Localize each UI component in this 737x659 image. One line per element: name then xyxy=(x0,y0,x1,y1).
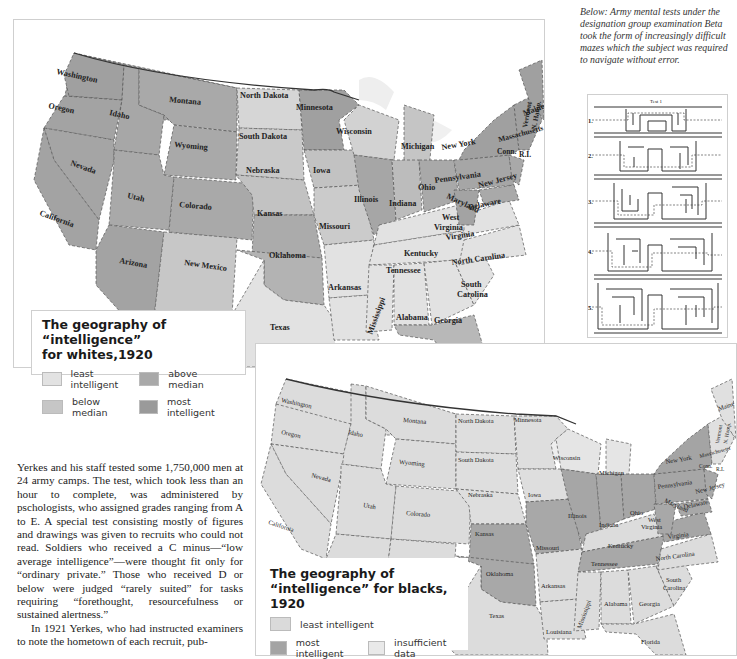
maze-row-label: 5. xyxy=(588,304,593,311)
state-label-georgia: Georgia xyxy=(434,316,462,325)
state-label-illinois: Illinois xyxy=(354,195,378,204)
legend-item-insufficient-data: insufficient data xyxy=(368,637,456,659)
maze-row-label: 2. xyxy=(588,152,593,159)
maze-illustration: Test 1 1. 2. 3. xyxy=(588,95,727,337)
state-label-kansas: Kansas xyxy=(257,209,282,218)
state-label-west-virginia: Virginia xyxy=(641,523,662,530)
state-label-tennessee: Tennessee xyxy=(591,560,618,567)
maze-row-label: 1. xyxy=(588,117,593,124)
legend-label: most intelligent xyxy=(296,637,354,659)
state-label-connecticut: Conn. xyxy=(699,463,713,469)
state-label-south-carolina: South xyxy=(461,280,482,289)
legend-swatch xyxy=(139,372,160,386)
state-label-kansas: Kansas xyxy=(475,530,494,537)
legend-item-below-median: below median xyxy=(42,396,139,418)
state-label-north-dakota: North Dakota xyxy=(458,417,494,424)
legend-swatch xyxy=(270,617,291,631)
legend-title-line: The geography of xyxy=(270,566,456,581)
state-label-wisconsin: Wisconsin xyxy=(336,127,372,136)
legend-title-line: for whites,1920 xyxy=(42,347,235,362)
state-label-arkansas: Arkansas xyxy=(328,283,361,292)
legend-item-above-median: above median xyxy=(139,368,236,390)
legend-item-most-intelligent: most intelligent xyxy=(270,637,354,659)
legend-swatch xyxy=(368,641,385,655)
state-label-kentucky: Kentucky xyxy=(404,249,439,258)
state-label-missouri: Missouri xyxy=(536,544,559,551)
body-paragraph: Yerkes and his staff tested some 1,750,0… xyxy=(17,461,243,622)
legend-swatch xyxy=(42,400,63,414)
state-label-alabama: Alabama xyxy=(604,600,628,607)
body-paragraph: In 1921 Yerkes, who had instructed exami… xyxy=(17,622,243,649)
state-label-georgia: Georgia xyxy=(639,600,660,607)
state-label-south-carolina: Carolina xyxy=(457,290,488,299)
legend-item-least-intelligent: least intelligent xyxy=(270,617,456,631)
state-label-north-dakota: North Dakota xyxy=(240,91,288,100)
state-label-west-virginia: West xyxy=(442,213,460,222)
state-label-west-virginia: West xyxy=(648,516,661,523)
state-label-wisconsin: Wisconsin xyxy=(553,454,581,461)
state-label-south-carolina: Carolina xyxy=(663,584,685,591)
state-label-michigan: Michigan xyxy=(401,142,435,151)
legend-swatch xyxy=(139,400,158,414)
state-label-louisiana: Louisiana xyxy=(546,628,572,635)
legend-title-line: The geography of “intelligence” xyxy=(42,317,235,347)
state-label-indiana: Indiana xyxy=(599,521,619,528)
legend-label: least intelligent xyxy=(71,368,139,390)
body-text: Yerkes and his staff tested some 1,750,0… xyxy=(17,461,243,649)
legend-title-line: “intelligence” for blacks, 1920 xyxy=(270,581,456,611)
state-label-tennessee: Tennessee xyxy=(386,266,421,275)
state-label-michigan: Michigan xyxy=(599,469,625,476)
state-label-ohio: Ohio xyxy=(630,509,643,516)
legend-item-least-intelligent: least intelligent xyxy=(42,368,139,390)
state-label-alabama: Alabama xyxy=(396,313,428,322)
state-label-minnesota: Minnesota xyxy=(514,416,542,423)
state-label-arkansas: Arkansas xyxy=(541,582,566,589)
state-label-south-dakota: South Dakota xyxy=(458,456,494,463)
legend-label: below median xyxy=(72,396,139,418)
legend-swatch xyxy=(270,641,287,655)
state-label-nebraska: Nebraska xyxy=(468,491,493,498)
legend-label: most intelligent xyxy=(167,396,235,418)
state-label-iowa: Iowa xyxy=(528,491,541,498)
state-label-kentucky: Kentucky xyxy=(608,542,634,549)
state-label-south-dakota: South Dakota xyxy=(239,132,287,141)
legend-label: least intelligent xyxy=(300,619,374,630)
maze-test-figure: Test 1 1. 2. 3. xyxy=(587,94,728,338)
maze-row-label: 4. xyxy=(588,248,593,255)
state-label-rhode-island: R.I. xyxy=(519,150,531,159)
maze-row-label: 3. xyxy=(588,198,593,205)
state-label-florida: Florida xyxy=(641,638,660,645)
legend-blacks: The geography of “intelligence” for blac… xyxy=(258,558,468,650)
state-label-missouri: Missouri xyxy=(319,222,351,231)
state-label-indiana: Indiana xyxy=(389,199,416,208)
state-label-south-carolina: South xyxy=(666,576,682,583)
legend-label: above median xyxy=(168,368,235,390)
state-label-ohio: Ohio xyxy=(418,183,435,192)
state-label-texas: Texas xyxy=(270,323,290,332)
state-label-illinois: Illinois xyxy=(568,512,587,519)
state-label-oklahoma: Oklahoma xyxy=(486,570,513,577)
state-label-oklahoma: Oklahoma xyxy=(269,251,306,260)
maze-title: Test 1 xyxy=(650,99,663,104)
state-label-west-virginia: Virginia xyxy=(434,223,463,232)
state-label-rhode-island: R.I. xyxy=(716,466,725,472)
state-label-minnesota: Minnesota xyxy=(296,103,333,112)
legend-swatch xyxy=(42,372,62,386)
legend-label: insufficient data xyxy=(394,637,456,659)
state-label-connecticut: Conn. xyxy=(497,147,517,156)
state-label-nebraska: Nebraska xyxy=(246,166,280,175)
state-label-iowa: Iowa xyxy=(313,166,330,175)
legend-title: The geography of “intelligence” for whit… xyxy=(42,317,235,362)
legend-title: The geography of “intelligence” for blac… xyxy=(270,566,456,611)
legend-item-most-intelligent: most intelligent xyxy=(139,396,236,418)
legend-whites: The geography of “intelligence” for whit… xyxy=(31,310,246,375)
state-label-texas: Texas xyxy=(489,612,505,619)
maze-caption: Below: Army mental tests under the desig… xyxy=(580,6,735,66)
